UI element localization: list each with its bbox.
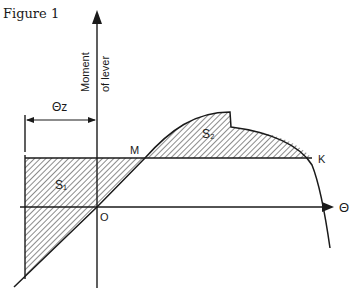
point-m-label: M — [130, 144, 139, 156]
point-k-label: K — [318, 153, 326, 165]
x-axis-label: Θ — [339, 200, 349, 215]
dimension-arrow-right-icon — [88, 117, 96, 123]
origin-label: O — [100, 211, 109, 223]
y-axis — [92, 10, 102, 288]
lever-moment-diagram: Θz Moment of lever Θ O M K S₁ S₂ — [0, 0, 354, 298]
x-axis-arrow-icon — [322, 202, 334, 212]
area-s1-label: S₁ — [55, 178, 67, 192]
y-axis-label-line2: of lever — [99, 56, 111, 92]
theta-z-dimension: Θz — [26, 100, 96, 123]
area-s2-label: S₂ — [202, 127, 215, 141]
area-s2 — [145, 112, 312, 158]
theta-z-label: Θz — [52, 100, 67, 114]
y-axis-label-line1: Moment — [79, 52, 91, 92]
dimension-arrow-left-icon — [26, 117, 34, 123]
y-axis-arrow-icon — [92, 10, 102, 24]
